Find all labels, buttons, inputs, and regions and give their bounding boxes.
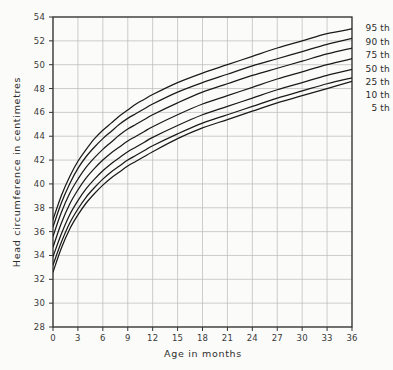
x-axis-tick-label: 15 bbox=[172, 333, 183, 343]
x-axis-tick-label: 18 bbox=[197, 333, 208, 343]
legend-label-10th: 10 th bbox=[365, 90, 390, 100]
x-axis-tick-label: 36 bbox=[346, 333, 357, 343]
y-axis-tick-label: 28 bbox=[34, 322, 45, 332]
legend-label-5th: 5 th bbox=[371, 103, 390, 113]
x-axis-tick-label: 3 bbox=[75, 333, 81, 343]
legend-label-75th: 75 th bbox=[365, 50, 390, 60]
x-axis-title: Age in months bbox=[164, 348, 242, 359]
x-axis-tick-label: 9 bbox=[125, 333, 131, 343]
chart-background bbox=[0, 0, 393, 370]
y-axis-tick-label: 32 bbox=[34, 274, 45, 284]
y-axis-tick-label: 42 bbox=[34, 155, 45, 165]
x-axis-tick-label: 33 bbox=[321, 333, 332, 343]
x-axis-tick-label: 12 bbox=[147, 333, 158, 343]
x-axis-tick-label: 21 bbox=[222, 333, 233, 343]
y-axis-tick-label: 30 bbox=[34, 298, 45, 308]
y-axis-tick-label: 40 bbox=[34, 179, 45, 189]
y-axis-tick-label: 36 bbox=[34, 227, 45, 237]
x-axis-tick-label: 24 bbox=[247, 333, 258, 343]
y-axis-tick-label: 48 bbox=[34, 84, 45, 94]
x-axis-tick-label: 0 bbox=[50, 333, 56, 343]
y-axis-tick-label: 46 bbox=[34, 107, 45, 117]
legend-label-95th: 95 th bbox=[365, 23, 390, 33]
x-axis-tick-label: 6 bbox=[100, 333, 106, 343]
legend-label-25th: 25 th bbox=[365, 77, 390, 87]
y-axis-tick-label: 50 bbox=[34, 60, 45, 70]
growth-chart-page: 0369121518212427303336 28303234363840424… bbox=[0, 0, 393, 370]
legend-label-50th: 50 th bbox=[365, 64, 390, 74]
y-axis-tick-label: 38 bbox=[34, 203, 45, 213]
x-axis-tick-label: 30 bbox=[297, 333, 308, 343]
head-circumference-percentile-chart: 0369121518212427303336 28303234363840424… bbox=[0, 0, 393, 370]
percentile-legend: 95 th90 th75 th50 th25 th10 th5 th bbox=[365, 23, 390, 113]
y-axis-tick-label: 44 bbox=[34, 131, 45, 141]
y-axis-tick-label: 52 bbox=[34, 36, 45, 46]
y-axis-tick-label: 54 bbox=[34, 12, 45, 22]
x-axis-tick-label: 27 bbox=[272, 333, 283, 343]
legend-label-90th: 90 th bbox=[365, 37, 390, 47]
y-axis-tick-label: 34 bbox=[34, 250, 45, 260]
y-axis-title: Head circumference in centimetres bbox=[11, 77, 22, 267]
